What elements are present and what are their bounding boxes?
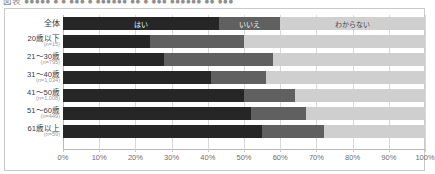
bar-row: 31～40歳(n=1,034)はいいいえわからない	[5, 71, 426, 84]
legend-label-0: はい	[134, 19, 148, 29]
x-tickmark-40	[208, 149, 209, 152]
bar-row: 61歳以上(n=59)はいいいえわからない	[5, 125, 426, 138]
row-label-4: 41～50歳(n=1,008)	[4, 89, 60, 103]
x-tick-label-30: 30%	[164, 153, 179, 162]
bar-segment-0[interactable]: はい	[63, 125, 262, 138]
row-sample-size: (n=449)	[4, 115, 60, 121]
x-tickmark-20	[135, 149, 136, 152]
stacked-bar[interactable]: はいいいえわからない	[63, 35, 425, 48]
x-axis: 0%10%20%30%40%50%60%70%80%90%100%	[63, 150, 425, 170]
row-sample-size: (n=795)	[4, 61, 60, 67]
x-tickmark-50	[244, 149, 245, 152]
x-tick-label-100: 100%	[415, 153, 434, 162]
x-tickmark-30	[172, 149, 173, 152]
x-tick-label-50: 50%	[236, 153, 251, 162]
bar-row: 51～60歳(n=449)はいいいえわからない	[5, 107, 426, 120]
bar-segment-1[interactable]: いいえ	[150, 35, 244, 48]
chart-frame: 全体はいいいえわからない20歳以下(n=15)はいいいえわからない21～30歳(…	[4, 8, 425, 171]
bar-segment-0[interactable]: はい	[63, 89, 244, 102]
stacked-bar[interactable]: はいいいえわからない	[63, 71, 425, 84]
x-tick-label-40: 40%	[200, 153, 215, 162]
caption-strip: 図表 ●●●●● ● ● ●●● ● ●●●●●● ●● ● ●●● ●●●●●…	[0, 0, 429, 7]
x-tickmark-80	[353, 149, 354, 152]
x-tick-label-80: 80%	[345, 153, 360, 162]
row-sample-size: (n=1,034)	[4, 79, 60, 85]
bar-segment-0[interactable]: はい	[63, 35, 150, 48]
bar-segment-2[interactable]: わからない	[280, 17, 425, 30]
x-tick-label-90: 90%	[381, 153, 396, 162]
bar-segment-2[interactable]: わからない	[266, 71, 425, 84]
bar-segment-0[interactable]: はい	[63, 53, 164, 66]
bar-segment-2[interactable]: わからない	[306, 107, 425, 120]
bar-row: 全体はいいいえわからない	[5, 17, 426, 30]
bar-segment-1[interactable]: いいえ	[244, 89, 295, 102]
row-sample-size: (n=59)	[4, 133, 60, 139]
x-tickmark-0	[63, 149, 64, 152]
bar-segment-1[interactable]: いいえ	[211, 71, 265, 84]
x-tick-label-20: 20%	[128, 153, 143, 162]
bar-segment-1[interactable]: いいえ	[251, 107, 305, 120]
bar-segment-2[interactable]: わからない	[324, 125, 425, 138]
x-tick-label-60: 60%	[273, 153, 288, 162]
x-tickmark-60	[280, 149, 281, 152]
x-tickmark-10	[99, 149, 100, 152]
x-tick-label-10: 10%	[92, 153, 107, 162]
bar-row: 20歳以下(n=15)はいいいえわからない	[5, 35, 426, 48]
legend-label-1: いいえ	[239, 19, 260, 29]
bar-row: 21～30歳(n=795)はいいいえわからない	[5, 53, 426, 66]
bar-segment-1[interactable]: いいえ	[262, 125, 324, 138]
row-label-2: 21～30歳(n=795)	[4, 53, 60, 67]
x-tickmark-90	[389, 149, 390, 152]
stacked-bar[interactable]: はいいいえわからない	[63, 17, 425, 30]
row-category-label: 全体	[4, 19, 60, 27]
legend-label-2: わからない	[335, 19, 370, 29]
bar-segment-0[interactable]: はい	[63, 17, 219, 30]
stacked-bar[interactable]: はいいいえわからない	[63, 107, 425, 120]
bar-segment-2[interactable]: わからない	[273, 53, 425, 66]
x-tickmark-100	[425, 149, 426, 152]
stacked-bar[interactable]: はいいいえわからない	[63, 53, 425, 66]
row-label-1: 20歳以下(n=15)	[4, 35, 60, 49]
row-sample-size: (n=1,008)	[4, 97, 60, 103]
x-tick-label-0: 0%	[58, 153, 69, 162]
bar-segment-2[interactable]: わからない	[244, 35, 425, 48]
row-label-3: 31～40歳(n=1,034)	[4, 71, 60, 85]
stacked-bar[interactable]: はいいいえわからない	[63, 89, 425, 102]
bar-segment-1[interactable]: いいえ	[219, 17, 281, 30]
bar-segment-0[interactable]: はい	[63, 71, 211, 84]
caption-text: 図表 ●●●●● ● ● ●●● ● ●●●●●● ●● ● ●●● ●●●●●…	[3, 0, 234, 6]
row-label-5: 51～60歳(n=449)	[4, 107, 60, 121]
row-label-6: 61歳以上(n=59)	[4, 125, 60, 139]
x-tickmark-70	[316, 149, 317, 152]
bar-segment-1[interactable]: いいえ	[164, 53, 273, 66]
bar-segment-2[interactable]: わからない	[295, 89, 425, 102]
bar-row: 41～50歳(n=1,008)はいいいえわからない	[5, 89, 426, 102]
stacked-bar[interactable]: はいいいえわからない	[63, 125, 425, 138]
x-tick-label-70: 70%	[309, 153, 324, 162]
bar-segment-0[interactable]: はい	[63, 107, 251, 120]
row-sample-size: (n=15)	[4, 43, 60, 49]
row-label-0: 全体	[4, 19, 60, 27]
